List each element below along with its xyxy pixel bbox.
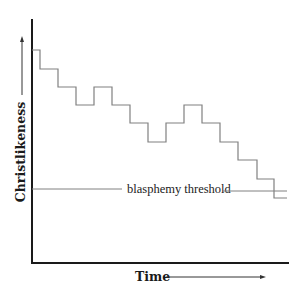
christlikeness-step-line [32, 50, 287, 198]
y-axis-label: Christlikeness [13, 102, 28, 202]
y-arrow-icon [20, 36, 24, 95]
x-axis-label: Time [135, 269, 170, 284]
x-arrow-icon [166, 275, 266, 279]
threshold-label: blasphemy threshold [127, 182, 232, 196]
step-chart: Christlikeness blasphemy threshold Time [0, 0, 303, 295]
